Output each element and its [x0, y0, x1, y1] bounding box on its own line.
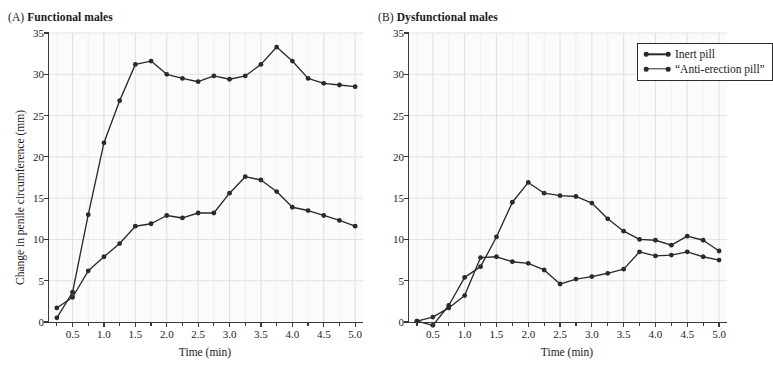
x-tick-mark: [339, 322, 340, 326]
y-tick-label: 15: [393, 193, 404, 204]
x-tick-label: 2.0: [160, 329, 174, 340]
panel-dysfunctional-males: (B) Dysfunctional males 05101520253035 0…: [370, 0, 735, 368]
panel-b-tag: (B): [378, 11, 394, 23]
y-tick-label: 30: [393, 69, 404, 80]
x-tick-label: 4.0: [285, 329, 299, 340]
x-tick-label: 0.5: [66, 329, 80, 340]
x-axis-label-a: Time (min): [48, 346, 362, 358]
plot-area-b: 05101520253035 0.51.01.52.02.53.03.54.04…: [408, 33, 727, 323]
y-tick-mark: [44, 280, 49, 281]
x-tick-mark: [607, 322, 608, 326]
x-tick-mark: [150, 322, 151, 326]
x-tick-label: 2.5: [553, 329, 567, 340]
legend-item-inert-pill: Inert pill: [644, 47, 765, 62]
x-tick-label: 4.5: [680, 329, 694, 340]
x-tick-mark: [307, 322, 308, 326]
x-tick-mark: [198, 322, 199, 327]
x-tick-label: 5.0: [712, 329, 726, 340]
x-tick-mark: [292, 322, 293, 327]
y-tick-label: 15: [33, 193, 44, 204]
x-tick-label: 3.5: [254, 329, 268, 340]
x-tick-mark: [276, 322, 277, 326]
x-tick-label: 3.5: [617, 329, 631, 340]
x-tick-mark: [639, 322, 640, 326]
legend-label-1: “Anti-erection pill”: [675, 62, 765, 77]
x-tick-mark: [260, 322, 261, 327]
x-tick-mark: [528, 322, 529, 327]
x-tick-mark: [703, 322, 704, 326]
y-tick-label: 30: [33, 69, 44, 80]
x-tick-label: 3.0: [585, 329, 599, 340]
y-tick-mark: [404, 156, 409, 157]
y-tick-mark: [404, 198, 409, 199]
panel-b-title-text: Dysfunctional males: [397, 11, 498, 23]
x-tick-mark: [229, 322, 230, 327]
legend-line-icon: [644, 64, 670, 74]
y-tick-mark: [404, 115, 409, 116]
panel-a-title-text: Functional males: [27, 11, 113, 23]
x-tick-mark: [687, 322, 688, 327]
y-tick-mark: [404, 321, 409, 322]
x-tick-label: 2.5: [191, 329, 205, 340]
y-tick-mark: [44, 32, 49, 33]
x-tick-label: 1.5: [128, 329, 142, 340]
x-tick-mark: [480, 322, 481, 326]
y-tick-label: 25: [33, 110, 44, 121]
panel-a-tag: (A): [8, 11, 24, 23]
y-tick-label: 10: [393, 234, 404, 245]
panel-b-title: (B) Dysfunctional males: [378, 11, 498, 23]
x-tick-label: 1.5: [490, 329, 504, 340]
x-tick-label: 4.0: [649, 329, 663, 340]
y-tick-mark: [44, 74, 49, 75]
x-tick-label: 0.5: [426, 329, 440, 340]
plot-area-a: 05101520253035 0.51.01.52.02.53.03.54.04…: [48, 33, 363, 323]
x-tick-mark: [182, 322, 183, 326]
legend-item-anti-erection-pill: “Anti-erection pill”: [644, 62, 765, 77]
panel-functional-males: (A) Functional males Change in penile ci…: [0, 0, 370, 368]
y-tick-mark: [404, 280, 409, 281]
x-tick-mark: [623, 322, 624, 327]
x-tick-mark: [88, 322, 89, 326]
x-tick-mark: [559, 322, 560, 327]
x-tick-mark: [119, 322, 120, 326]
x-tick-mark: [591, 322, 592, 327]
x-tick-mark: [448, 322, 449, 326]
x-tick-mark: [166, 322, 167, 327]
x-tick-mark: [72, 322, 73, 327]
x-tick-label: 4.5: [317, 329, 331, 340]
panel-a-title: (A) Functional males: [8, 11, 113, 23]
y-tick-mark: [44, 321, 49, 322]
y-tick-label: 25: [393, 110, 404, 121]
x-tick-mark: [512, 322, 513, 326]
y-tick-mark: [44, 239, 49, 240]
x-tick-mark: [56, 322, 57, 326]
x-tick-mark: [655, 322, 656, 327]
x-tick-mark: [323, 322, 324, 327]
y-tick-label: 35: [33, 28, 44, 39]
y-tick-mark: [404, 74, 409, 75]
x-tick-mark: [575, 322, 576, 326]
x-tick-mark: [496, 322, 497, 327]
x-tick-mark: [432, 322, 433, 327]
legend: Inert pill “Anti-erection pill”: [637, 43, 773, 81]
x-tick-mark: [355, 322, 356, 327]
x-tick-mark: [718, 322, 719, 327]
y-tick-mark: [404, 239, 409, 240]
x-tick-mark: [245, 322, 246, 326]
x-tick-label: 1.0: [97, 329, 111, 340]
x-tick-mark: [416, 322, 417, 326]
x-tick-label: 5.0: [348, 329, 362, 340]
x-tick-label: 1.0: [458, 329, 472, 340]
x-tick-mark: [544, 322, 545, 326]
x-tick-mark: [103, 322, 104, 327]
y-tick-label: 35: [393, 28, 404, 39]
y-axis-label: Change in penile circumference (mm): [14, 110, 26, 285]
y-tick-label: 20: [393, 151, 404, 162]
legend-line-icon: [644, 49, 670, 59]
y-tick-mark: [44, 198, 49, 199]
y-tick-label: 20: [33, 151, 44, 162]
x-axis-label-b: Time (min): [408, 346, 726, 358]
x-tick-mark: [671, 322, 672, 326]
x-tick-mark: [135, 322, 136, 327]
y-tick-label: 10: [33, 234, 44, 245]
